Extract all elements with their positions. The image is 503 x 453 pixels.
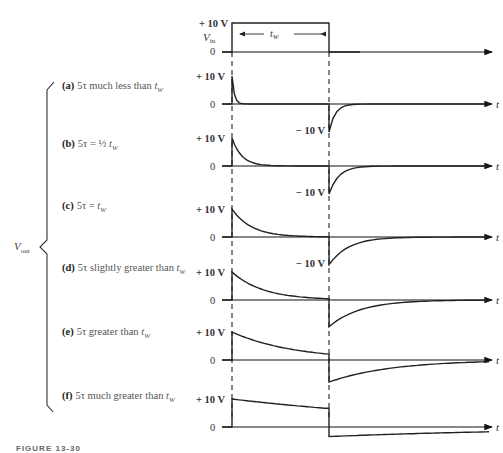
zero-label: 0 <box>210 232 215 243</box>
negative-voltage-label: − 10 V <box>296 187 326 198</box>
case-label-d: (d)5τ slightly greater than tW <box>62 262 185 276</box>
high-voltage-label: + 10 V <box>196 71 226 82</box>
case-label-c: (c)5τ = tW <box>62 200 106 214</box>
negative-voltage-label: − 10 V <box>296 125 326 136</box>
zero-label: 0 <box>210 355 215 366</box>
vin-label: Vin <box>203 31 216 45</box>
output-waveform-b: + 10 V0− 10 Vt <box>196 133 500 198</box>
vin-waveform: + 10 V 0 Vin tW <box>199 18 492 57</box>
vout-brace <box>40 82 54 412</box>
output-waveform-f: + 10 V0t <box>196 394 500 437</box>
high-voltage-label: + 10 V <box>196 133 226 144</box>
vin-zero-label: 0 <box>210 46 215 57</box>
vin-high-label: + 10 V <box>199 18 229 29</box>
negative-voltage-label: − 10 V <box>296 258 326 269</box>
high-voltage-label: + 10 V <box>196 327 226 338</box>
t-axis-label: t <box>496 354 500 366</box>
zero-label: 0 <box>210 161 215 172</box>
high-voltage-label: + 10 V <box>196 267 226 278</box>
case-label-a: (a)5τ much less than tW <box>62 80 163 94</box>
case-label-f: (f)5τ much greater than tW <box>62 390 175 404</box>
output-waveform-c: + 10 V0− 10 Vt <box>196 204 500 269</box>
high-voltage-label: + 10 V <box>196 394 226 405</box>
t-axis-label: t <box>496 160 500 172</box>
t-axis-label: t <box>496 294 500 306</box>
case-label-e: (e)5τ greater than tW <box>62 326 150 340</box>
high-voltage-label: + 10 V <box>196 204 226 215</box>
case-label-b: (b)5τ = ½ tW <box>62 138 118 152</box>
t-axis-label: t <box>496 98 500 110</box>
output-waveform-d: + 10 V0t <box>196 267 500 327</box>
t-axis-label: t <box>496 421 500 433</box>
zero-label: 0 <box>210 422 215 433</box>
vout-label: Vout <box>14 240 30 255</box>
output-waveforms: + 10 V0− 10 Vt+ 10 V0− 10 Vt+ 10 V0− 10 … <box>196 71 500 437</box>
figure-caption: FIGURE 13-30 <box>16 444 81 453</box>
output-waveform-a: + 10 V0− 10 Vt <box>196 71 500 136</box>
zero-label: 0 <box>210 99 215 110</box>
output-waveform-e: + 10 V0t <box>196 327 500 382</box>
zero-label: 0 <box>210 295 215 306</box>
t-axis-label: t <box>496 231 500 243</box>
